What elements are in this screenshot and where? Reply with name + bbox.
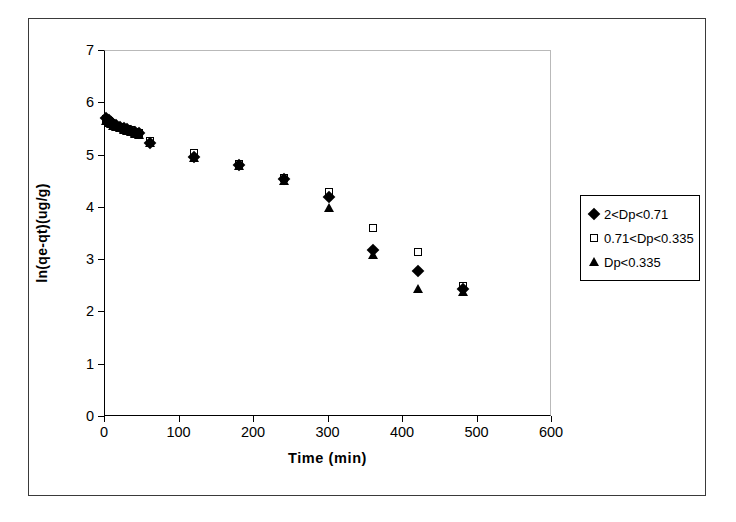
data-point	[458, 287, 468, 296]
open-square-icon	[587, 231, 601, 245]
x-tick-mark	[253, 416, 254, 422]
x-tick-mark	[179, 416, 180, 422]
y-tick-label: 6	[72, 94, 94, 110]
data-point	[134, 130, 144, 139]
x-tick-mark	[328, 416, 329, 422]
legend-item-2[interactable]: Dp<0.335	[587, 250, 694, 274]
chart-legend: 2<Dp<0.71 0.71<Dp<0.335 Dp<0.335	[580, 195, 700, 281]
data-point	[324, 203, 334, 212]
x-tick-label: 600	[539, 424, 563, 440]
y-tick-label: 7	[72, 42, 94, 58]
x-tick-label: 200	[241, 424, 265, 440]
x-tick-mark	[104, 416, 105, 422]
y-tick-label: 3	[72, 251, 94, 267]
legend-label: 0.71<Dp<0.335	[604, 231, 694, 246]
data-point	[189, 153, 199, 162]
filled-diamond-icon	[587, 207, 601, 221]
y-axis-title: ln(qe-qt)(ug/g)	[34, 183, 50, 282]
x-axis-title: Time (min)	[104, 450, 551, 466]
data-point	[279, 176, 289, 185]
figure-canvas: 01234567 0100200300400500600 ln(qe-qt)(u…	[0, 0, 736, 522]
data-point	[368, 250, 378, 259]
data-point	[369, 224, 377, 232]
legend-label: 2<Dp<0.71	[604, 207, 668, 222]
x-tick-label: 300	[315, 424, 339, 440]
plot-area	[104, 50, 551, 416]
data-point	[414, 248, 422, 256]
x-tick-label: 400	[390, 424, 414, 440]
filled-triangle-icon	[587, 255, 601, 269]
y-tick-label: 1	[72, 356, 94, 372]
data-point	[234, 161, 244, 170]
x-tick-label: 100	[166, 424, 190, 440]
data-point	[413, 284, 423, 293]
y-tick-label: 2	[72, 303, 94, 319]
x-tick-mark	[477, 416, 478, 422]
x-tick-mark	[551, 416, 552, 422]
data-point	[412, 265, 425, 278]
data-point	[145, 138, 155, 147]
y-tick-label: 4	[72, 199, 94, 215]
legend-item-0[interactable]: 2<Dp<0.71	[587, 202, 694, 226]
y-tick-label: 5	[72, 147, 94, 163]
y-tick-label: 0	[72, 408, 94, 424]
legend-item-1[interactable]: 0.71<Dp<0.335	[587, 226, 694, 250]
legend-label: Dp<0.335	[604, 255, 661, 270]
x-tick-mark	[402, 416, 403, 422]
x-tick-label: 500	[464, 424, 488, 440]
x-tick-label: 0	[100, 424, 108, 440]
